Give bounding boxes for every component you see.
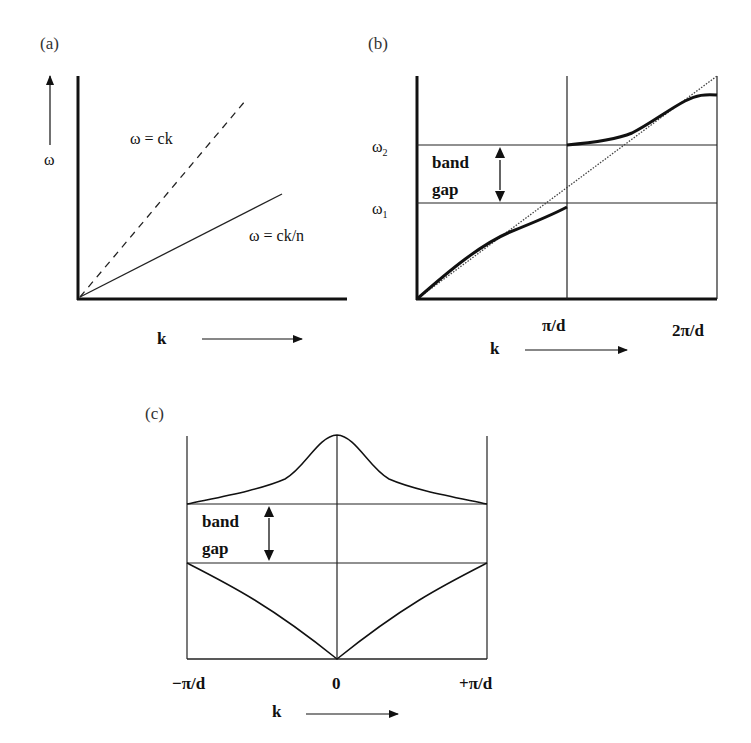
x-tick-minus-pi-over-d: −π/d	[172, 674, 206, 693]
figure-canvas: (a) ω ω = ck ω = ck/n k (b)	[0, 0, 751, 743]
panel-a-label: (a)	[40, 34, 59, 53]
y-axis-label: ω	[44, 151, 55, 168]
x-axis-label: k	[490, 339, 500, 358]
band-gap-arrow-up-icon	[495, 147, 505, 158]
panel-c: (c) band gap −π/d 0 +π/d k	[145, 404, 493, 721]
x-axis-label: k	[157, 329, 167, 348]
upper-band-curve	[567, 95, 717, 145]
band-gap-label-line1: band	[432, 153, 469, 172]
x-tick-zero: 0	[332, 674, 341, 693]
band-gap-arrow-down-icon	[495, 191, 505, 202]
x-axis-label: k	[272, 702, 282, 721]
band-gap-label-line2: gap	[202, 539, 228, 558]
panel-a: (a) ω ω = ck ω = ck/n k	[40, 34, 347, 348]
x-tick-pi-over-d: π/d	[542, 316, 566, 335]
x-tick-2pi-over-d: 2π/d	[672, 321, 705, 340]
panel-c-label: (c)	[145, 404, 164, 423]
equation-light-line: ω = ck	[130, 130, 173, 147]
x-tick-plus-pi-over-d: +π/d	[459, 674, 493, 693]
equation-medium-line: ω = ck/n	[249, 227, 304, 244]
omega1-label: ω1	[372, 200, 388, 220]
medium-line-solid	[80, 194, 282, 297]
band-gap-label-line2: gap	[432, 180, 458, 199]
band-gap-label-line1: band	[202, 512, 239, 531]
panel-b: (b) band gap ω2 ω1 π/d 2π/d k	[368, 34, 717, 358]
panel-b-label: (b)	[368, 34, 388, 53]
omega2-label: ω2	[372, 138, 388, 158]
lower-band-curve	[417, 207, 567, 299]
band-gap-arrow-down-icon	[264, 550, 274, 561]
band-gap-arrow-up-icon	[264, 506, 274, 517]
